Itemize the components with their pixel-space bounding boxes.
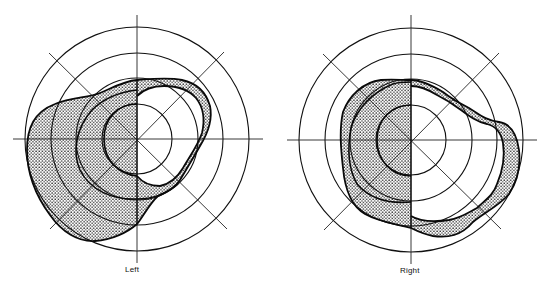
right-field-diagram <box>273 0 546 289</box>
right-eye-label: Right <box>400 266 420 275</box>
left-field-diagram <box>0 0 273 289</box>
left-eye-label: Left <box>125 265 139 274</box>
right-eye-chart: Right <box>273 0 546 289</box>
left-eye-chart: Left <box>0 0 273 289</box>
meridian-lines <box>13 15 263 263</box>
right-shaded-region <box>341 80 520 237</box>
left-shaded-region <box>27 78 211 241</box>
